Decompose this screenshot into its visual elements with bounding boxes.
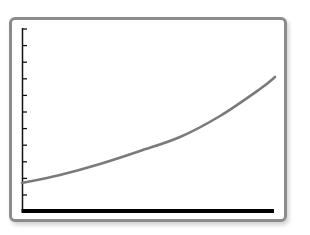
chart-stage xyxy=(0,0,310,235)
data-series-curve xyxy=(22,77,275,183)
line-chart xyxy=(0,0,310,235)
